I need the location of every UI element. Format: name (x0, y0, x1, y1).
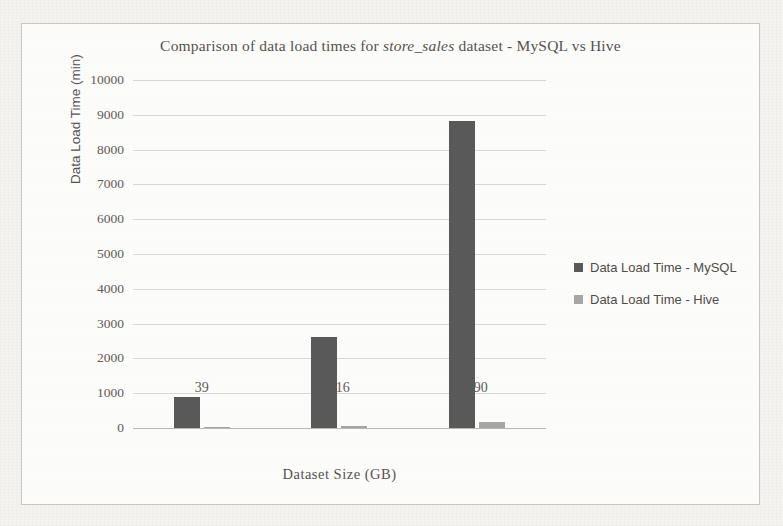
legend-swatch-icon (574, 263, 583, 272)
bar-group (133, 80, 271, 428)
plot-area: 1000090008000700060005000400030002000100… (133, 80, 546, 428)
y-tick-label: 9000 (97, 107, 124, 123)
y-tick-label: 2000 (97, 350, 124, 366)
bar-group (408, 80, 546, 428)
chart-title-after: dataset - MySQL vs Hive (454, 37, 621, 54)
legend-label: Data Load Time - MySQL (590, 260, 737, 275)
x-tick-label: 390 (467, 380, 488, 396)
legend-item[interactable]: Data Load Time - Hive (574, 292, 737, 307)
x-tick-label: 39 (195, 380, 209, 396)
chart-title-dataset-name: store_sales (383, 37, 454, 54)
y-tick-label: 0 (117, 420, 124, 436)
chart-legend: Data Load Time - MySQLData Load Time - H… (574, 260, 737, 324)
y-axis-title: Data Load Time (min) (68, 54, 83, 184)
y-tick-label: 3000 (97, 316, 124, 332)
x-axis-title: Dataset Size (GB) (133, 466, 546, 483)
bar[interactable] (479, 422, 505, 428)
chart-title-before: Comparison of data load times for (160, 37, 383, 54)
chart-title: Comparison of data load times for store_… (22, 37, 759, 55)
y-tick-label: 5000 (97, 246, 124, 262)
y-tick-label: 1000 (97, 385, 124, 401)
bar[interactable] (204, 427, 230, 428)
chart-frame: Comparison of data load times for store_… (21, 23, 760, 505)
x-axis-line (133, 428, 546, 429)
legend-item[interactable]: Data Load Time - MySQL (574, 260, 737, 275)
bar-group (271, 80, 409, 428)
y-tick-label: 6000 (97, 211, 124, 227)
y-tick-label: 8000 (97, 142, 124, 158)
y-tick-label: 4000 (97, 281, 124, 297)
x-tick-label: 116 (329, 380, 349, 396)
y-tick-label: 7000 (97, 176, 124, 192)
bar[interactable] (174, 397, 200, 428)
y-tick-label: 10000 (90, 72, 124, 88)
bar[interactable] (341, 426, 367, 428)
legend-swatch-icon (574, 295, 583, 304)
legend-label: Data Load Time - Hive (590, 292, 719, 307)
